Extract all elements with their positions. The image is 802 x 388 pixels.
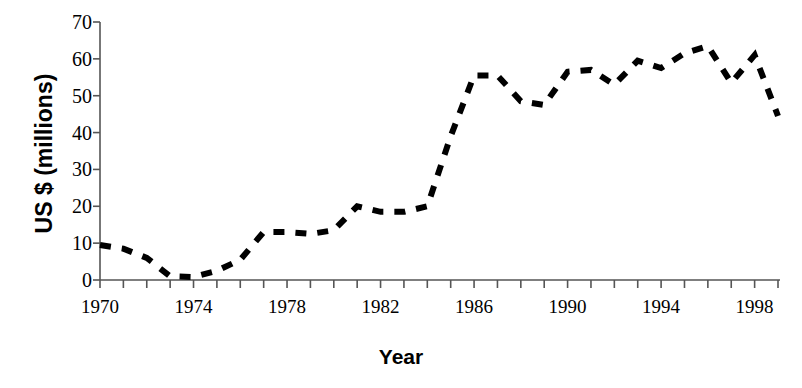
x-tick-label: 1990	[528, 296, 608, 318]
y-tick-label-wrap: 20	[52, 196, 92, 216]
y-tick-label: 30	[72, 159, 92, 179]
x-tick-label: 1986	[434, 296, 514, 318]
y-tick-label: 10	[72, 233, 92, 253]
x-tick-label: 1970	[60, 296, 140, 318]
chart-container: US $ (millions) 010203040506070 19701974…	[0, 0, 802, 388]
y-tick-label-wrap: 40	[52, 123, 92, 143]
y-tick-label: 60	[72, 49, 92, 69]
x-tick-label: 1994	[621, 296, 701, 318]
y-tick-label: 50	[72, 86, 92, 106]
x-tick-label: 1982	[341, 296, 421, 318]
y-tick-label-wrap: 10	[52, 233, 92, 253]
y-tick-label-wrap: 50	[52, 86, 92, 106]
y-tick-label: 0	[82, 270, 92, 290]
y-tick-label-wrap: 60	[52, 49, 92, 69]
y-tick-label: 40	[72, 123, 92, 143]
x-axis-title: Year	[0, 345, 802, 369]
y-tick-label-wrap: 0	[52, 270, 92, 290]
x-tick-label: 1978	[247, 296, 327, 318]
plot-area	[0, 0, 802, 388]
x-tick-label: 1998	[715, 296, 795, 318]
y-tick-label-wrap: 30	[52, 159, 92, 179]
y-tick-label-wrap: 70	[52, 12, 92, 32]
y-tick-label: 70	[72, 12, 92, 32]
x-tick-label: 1974	[154, 296, 234, 318]
data-series-line	[100, 46, 778, 277]
y-tick-label: 20	[72, 196, 92, 216]
